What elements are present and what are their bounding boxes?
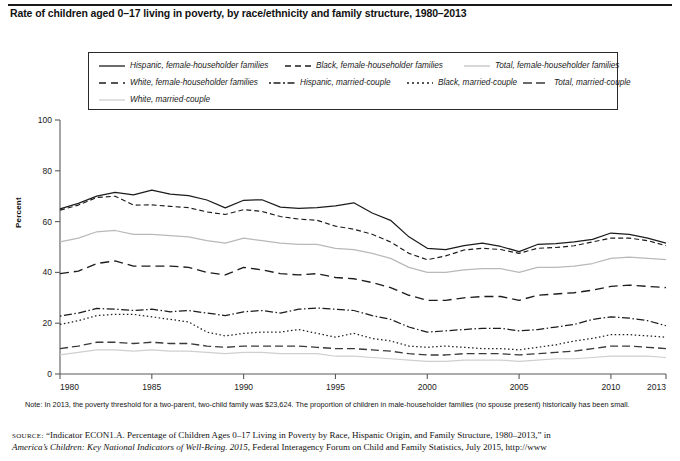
series-line — [60, 261, 666, 300]
series-line — [60, 230, 666, 272]
source-publication-title: America’s Children: Key National Indicat… — [12, 442, 248, 452]
legend-row-1: Hispanic, female-householder families Bl… — [89, 58, 617, 74]
legend-swatch-dotted-dark-icon — [407, 78, 433, 88]
legend-swatch-longdash-dark-icon — [99, 78, 125, 88]
chart-note: Note: In 2013, the poverty threshold for… — [25, 400, 659, 411]
series-group — [60, 190, 666, 361]
legend-item-black-married: Black, married-couple — [407, 75, 517, 91]
legend-row-3: White, married-couple — [89, 92, 617, 108]
legend-label: Total, female-householder families — [495, 61, 619, 71]
y-tick-label: 60 — [43, 217, 53, 227]
legend-label: Hispanic, female-householder families — [130, 61, 268, 71]
legend-swatch-longdash-mid-icon — [523, 78, 549, 88]
x-tick-label: 2005 — [510, 382, 529, 392]
series-line — [60, 342, 666, 355]
legend-item-white-female: White, female-householder families — [99, 75, 258, 91]
legend-swatch-solid-verylight-icon — [99, 95, 125, 105]
poverty-line-chart: 0204060801001980198519901995200020052010… — [0, 112, 680, 402]
y-tick-label: 0 — [47, 369, 52, 379]
source-lead: source: — [12, 432, 44, 440]
page-title: Rate of children aged 0–17 living in pov… — [10, 7, 467, 19]
series-line — [60, 314, 666, 350]
legend-row-2: White, female-householder families Hispa… — [89, 75, 617, 91]
y-tick-label: 20 — [43, 318, 53, 328]
legend-item-hispanic-married: Hispanic, married-couple — [269, 75, 391, 91]
note-lead: Note: — [25, 400, 42, 409]
x-tick-label: 1990 — [234, 382, 253, 392]
y-tick-label: 80 — [43, 166, 53, 176]
y-tick-label: 100 — [38, 115, 52, 125]
legend-label: White, female-householder families — [130, 78, 258, 88]
series-line — [60, 190, 666, 251]
legend-label: Total, married-couple — [554, 78, 631, 88]
x-tick-label: 2000 — [418, 382, 437, 392]
source-line2-rest: , Federal Interagency Forum on Child and… — [248, 442, 547, 452]
x-tick-label: 2010 — [601, 382, 620, 392]
legend-item-total-married: Total, married-couple — [523, 75, 631, 91]
series-line — [60, 308, 666, 332]
legend-label: Black, married-couple — [438, 78, 517, 88]
legend-swatch-dashed-dark-icon — [285, 61, 311, 71]
chart-plot-area: 0204060801001980198519901995200020052010… — [0, 112, 680, 402]
x-tick-label: 2013 — [647, 382, 666, 392]
legend-item-black-female: Black, female-householder families — [285, 58, 443, 74]
legend-label: Hispanic, married-couple — [300, 78, 391, 88]
legend-swatch-solid-dark-icon — [99, 61, 125, 71]
axes-group — [55, 120, 666, 379]
series-line — [60, 196, 666, 260]
legend-item-total-female: Total, female-householder families — [464, 58, 619, 74]
legend-swatch-dashdot-dark-icon — [269, 78, 295, 88]
source-line1: “Indicator ECON1.A. Percentage of Childr… — [46, 430, 551, 440]
chart-source: source: “Indicator ECON1.A. Percentage o… — [12, 430, 668, 452]
legend-item-white-married: White, married-couple — [99, 92, 210, 108]
x-tick-label: 1980 — [60, 382, 79, 392]
legend-item-hispanic-female: Hispanic, female-householder families — [99, 58, 268, 74]
note-text: In 2013, the poverty threshold for a two… — [42, 400, 629, 409]
x-tick-label: 1985 — [142, 382, 161, 392]
y-tick-label: 40 — [43, 267, 53, 277]
legend-label: Black, female-householder families — [316, 61, 443, 71]
legend-label: White, married-couple — [130, 95, 210, 105]
x-tick-label: 1995 — [326, 382, 345, 392]
chart-legend: Hispanic, female-householder families Bl… — [88, 52, 618, 110]
legend-swatch-solid-light-icon — [464, 61, 490, 71]
